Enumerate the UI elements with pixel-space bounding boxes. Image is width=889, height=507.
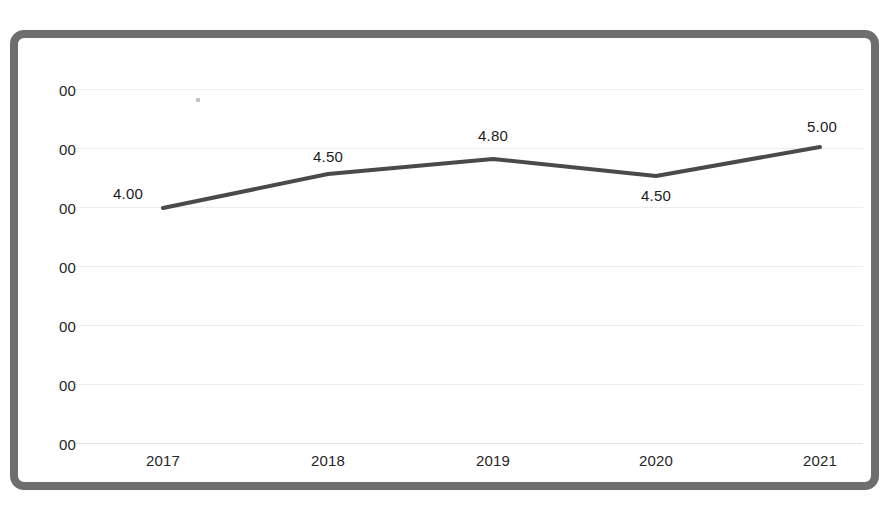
x-axis-tick-label: 2021: [780, 453, 860, 468]
data-label: 5.00: [787, 119, 857, 134]
data-label: 4.50: [293, 149, 363, 164]
x-axis-tick-label: 2018: [288, 453, 368, 468]
cropped-header-text-sliver: —— ——— —— —— ——— —— — ——— ————: [0, 0, 889, 9]
screenshot-canvas: —— ——— —— —— ——— —— — ——— ———— 00 00 00 …: [0, 0, 889, 507]
cropped-header-text: —— ——— —— —— ——— —— — ——— ————: [60, 0, 459, 3]
chart-frame: 00 00 00 00 00 00 00 4.00 4.50 4.80 4.50…: [10, 30, 879, 490]
data-label: 4.80: [458, 128, 528, 143]
data-label: 4.50: [621, 188, 691, 203]
data-label: 4.00: [93, 186, 163, 201]
x-axis-tick-label: 2017: [123, 453, 203, 468]
series-polyline: [163, 147, 820, 208]
plot-area: 00 00 00 00 00 00 00 4.00 4.50 4.80 4.50…: [18, 38, 887, 498]
x-axis-tick-label: 2020: [616, 453, 696, 468]
x-axis-tick-label: 2019: [453, 453, 533, 468]
series-line-chart: [18, 38, 887, 498]
